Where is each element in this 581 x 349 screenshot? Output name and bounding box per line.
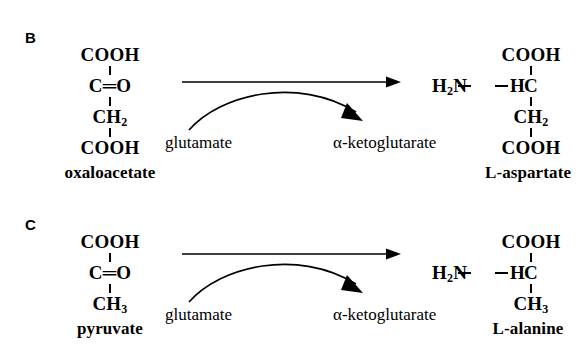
- molecule-label-l-alanine: L-alanine: [460, 318, 580, 340]
- reaction-arrow-group-c: [180, 242, 405, 308]
- aspartate-row-ch2: CH2: [460, 106, 580, 128]
- bond-vertical: [58, 128, 162, 137]
- aspartate-row-amino-center: H2NCH: [460, 75, 580, 97]
- alanine-row-amino-center: H2NCH: [460, 262, 580, 284]
- molecule-label-l-aspartate: L-aspartate: [460, 162, 580, 184]
- bond-vertical: [482, 253, 580, 262]
- aspartate-ch-subscript: 2: [542, 115, 548, 129]
- panel-letter-b: B: [25, 30, 36, 45]
- reaction-arrow-group-b: [180, 70, 405, 136]
- bond-vertical: [482, 284, 580, 293]
- pyruvate-row-carbonyl: C═O: [58, 262, 162, 284]
- bond-horizontal-left: [458, 85, 471, 87]
- curved-cosubstrate-arrow-path-c: [189, 264, 356, 302]
- aspartate-amino-h: H: [432, 75, 447, 96]
- alanine-ch-text: CH: [513, 293, 542, 314]
- molecule-label-oxaloacetate: oxaloacetate: [58, 162, 162, 184]
- reagent-label-glutamate-c: glutamate: [165, 306, 232, 323]
- oxaloacetate-row-carbonyl: C═O: [58, 75, 162, 97]
- panel-b-oxaloacetate-to-aspartate: B COOH C═O CH2 COOH oxaloacetate glutama…: [0, 0, 581, 200]
- bond-vertical: [58, 284, 162, 293]
- bond-vertical: [482, 66, 580, 75]
- aspartate-hydrogen: H: [510, 75, 525, 97]
- oxaloacetate-ch-text: CH: [92, 106, 121, 127]
- alanine-amino-sub: 2: [447, 271, 453, 285]
- pyruvate-row-cooh: COOH: [58, 231, 162, 253]
- pyruvate-row-ch3: CH3: [58, 293, 162, 315]
- bond-vertical: [482, 128, 580, 137]
- molecule-oxaloacetate: COOH C═O CH2 COOH oxaloacetate: [58, 44, 162, 184]
- molecule-label-pyruvate: pyruvate: [58, 318, 162, 340]
- alanine-row-cooh-top: COOH: [460, 231, 580, 253]
- aspartate-row-cooh-top: COOH: [460, 44, 580, 66]
- oxaloacetate-ch-subscript: 2: [121, 115, 127, 129]
- reagent-label-alpha-ketoglutarate-c: α-ketoglutarate: [333, 306, 436, 323]
- reagent-label-glutamate-b: glutamate: [165, 134, 232, 151]
- aspartate-alpha-carbon: C: [524, 75, 538, 96]
- oxaloacetate-row-ch2: CH2: [58, 106, 162, 128]
- straight-reaction-arrow-head-b: [386, 77, 401, 88]
- straight-reaction-arrow-head-c: [386, 249, 401, 260]
- alanine-ch-subscript: 3: [542, 302, 548, 316]
- bond-vertical: [482, 97, 580, 106]
- alanine-row-ch3: CH3: [460, 293, 580, 315]
- curved-cosubstrate-arrow-path-b: [189, 92, 356, 130]
- aspartate-amino-group: H2N: [432, 75, 467, 99]
- bond-vertical: [58, 97, 162, 106]
- molecule-l-alanine: COOH H2NCH CH3 L-alanine: [460, 231, 580, 340]
- oxaloacetate-row-cooh-bottom: COOH: [58, 137, 162, 159]
- oxaloacetate-row-cooh-top: COOH: [58, 44, 162, 66]
- bond-vertical: [58, 66, 162, 75]
- alanine-alpha-carbon: C: [524, 262, 538, 283]
- molecule-l-aspartate: COOH H2NCH CH2 COOH L-aspartate: [460, 44, 580, 184]
- alanine-amino-h: H: [432, 262, 447, 283]
- bond-horizontal-left: [458, 272, 471, 274]
- aspartate-row-cooh-bottom: COOH: [460, 137, 580, 159]
- alanine-hydrogen: H: [510, 262, 525, 284]
- aspartate-ch-text: CH: [513, 106, 542, 127]
- pyruvate-ch-subscript: 3: [121, 302, 127, 316]
- aspartate-amino-sub: 2: [447, 84, 453, 98]
- bond-horizontal-right: [495, 85, 508, 87]
- panel-letter-c: C: [25, 217, 36, 232]
- panel-c-pyruvate-to-alanine: C COOH C═O CH3 pyruvate glutamate α-keto…: [0, 200, 581, 349]
- molecule-pyruvate: COOH C═O CH3 pyruvate: [58, 231, 162, 340]
- bond-horizontal-right: [495, 272, 508, 274]
- pyruvate-ch-text: CH: [92, 293, 121, 314]
- bond-vertical: [58, 253, 162, 262]
- reagent-label-alpha-ketoglutarate-b: α-ketoglutarate: [333, 134, 436, 151]
- alanine-amino-group: H2N: [432, 262, 467, 286]
